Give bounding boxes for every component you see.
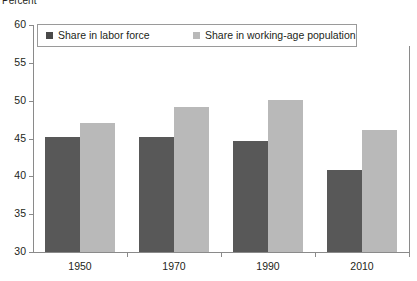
bar xyxy=(233,141,268,252)
bar xyxy=(80,123,115,252)
bar xyxy=(174,107,209,252)
x-tick-mark xyxy=(127,253,128,257)
y-tick-label: 40 xyxy=(14,169,26,182)
y-axis-unit-label: Percent xyxy=(2,0,36,6)
y-tick-label: 50 xyxy=(14,94,26,107)
y-tick-label: 35 xyxy=(14,207,26,220)
bar-chart: Percent 30354045505560 1950197019902010 … xyxy=(0,0,417,281)
bar xyxy=(362,130,397,252)
y-tick: 60 xyxy=(0,25,33,26)
y-tick-label: 30 xyxy=(14,245,26,258)
y-tick-mark xyxy=(29,25,33,26)
legend-entry: Share in working-age population xyxy=(193,29,356,42)
y-tick-label: 60 xyxy=(14,18,26,31)
legend-label: Share in labor force xyxy=(58,29,150,42)
bar xyxy=(139,137,174,252)
x-category-label: 1950 xyxy=(33,259,127,273)
x-tick-mark xyxy=(221,253,222,257)
x-category-label: 1970 xyxy=(127,259,221,273)
bar xyxy=(327,170,362,252)
y-tick: 30 xyxy=(0,252,33,253)
y-tick-mark xyxy=(29,139,33,140)
y-tick-mark xyxy=(29,176,33,177)
y-tick: 55 xyxy=(0,63,33,64)
x-category-label: 2010 xyxy=(315,259,409,273)
y-tick-mark xyxy=(29,63,33,64)
x-tick-mark xyxy=(315,253,316,257)
chart-legend: Share in labor forceShare in working-age… xyxy=(37,24,357,47)
y-tick: 40 xyxy=(0,176,33,177)
x-category-label: 1990 xyxy=(221,259,315,273)
y-tick: 50 xyxy=(0,101,33,102)
legend-swatch-icon xyxy=(46,32,53,39)
legend-entry: Share in labor force xyxy=(46,29,150,42)
y-tick-label: 55 xyxy=(14,56,26,69)
y-tick-mark xyxy=(29,252,33,253)
x-tick-mark xyxy=(409,253,410,257)
y-axis-line xyxy=(33,25,34,253)
plot-right-border xyxy=(409,46,410,253)
y-tick-mark xyxy=(29,214,33,215)
y-tick: 35 xyxy=(0,214,33,215)
legend-label: Share in working-age population xyxy=(205,29,356,42)
bar xyxy=(268,100,303,252)
bar xyxy=(45,137,80,252)
y-tick: 45 xyxy=(0,139,33,140)
y-tick-mark xyxy=(29,101,33,102)
y-tick-label: 45 xyxy=(14,132,26,145)
legend-swatch-icon xyxy=(193,32,200,39)
